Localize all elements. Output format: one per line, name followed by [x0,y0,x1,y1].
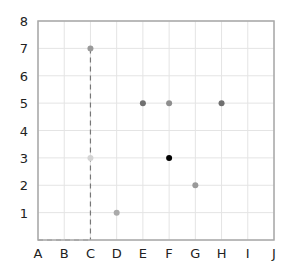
x-tick-label: C [86,246,95,261]
y-tick-label: 8 [20,14,28,29]
x-tick-label: I [246,246,250,261]
data-point [166,155,172,161]
x-tick-label: E [139,246,147,261]
x-tick-label: B [60,246,69,261]
y-tick-label: 6 [20,69,28,84]
y-tick-label: 7 [20,41,28,56]
x-tick-label: D [112,246,122,261]
y-axis-tick-labels: 12345678 [20,14,28,221]
data-point [114,210,120,216]
data-point [166,100,172,106]
x-tick-label: G [190,246,200,261]
grid-lines [38,21,274,240]
y-tick-label: 2 [20,178,28,193]
data-point [219,100,225,106]
y-tick-label: 4 [20,124,28,139]
x-tick-label: J [271,246,276,261]
data-point [192,182,198,188]
data-point [87,45,93,51]
x-tick-label: H [217,246,227,261]
y-tick-label: 5 [20,96,28,111]
x-tick-label: A [34,246,43,261]
scatter-chart: ABCDEFGHIJ 12345678 [0,0,291,267]
data-point [140,100,146,106]
x-axis-tick-labels: ABCDEFGHIJ [34,246,276,261]
y-tick-label: 1 [20,206,28,221]
x-tick-label: F [165,246,172,261]
data-point [87,155,93,161]
y-tick-label: 3 [20,151,28,166]
